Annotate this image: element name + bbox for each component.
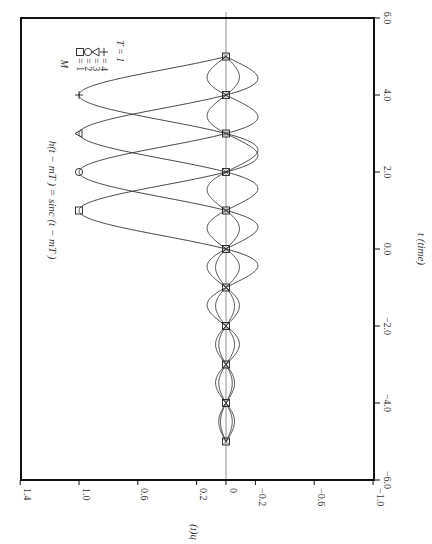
t-tick-label: 6.0	[382, 12, 393, 25]
h-tick-label: 0	[228, 488, 239, 493]
t-tick-label: 4.0	[382, 89, 393, 102]
triangle-marker-icon	[75, 130, 82, 138]
legend-entry-label: = 4	[99, 58, 110, 71]
legend-entries: = 1= 2= 3= 4	[75, 48, 110, 71]
t-axis-title: t (time)	[415, 233, 428, 265]
h-tick-label: 0.2	[198, 488, 209, 501]
t-tick-label: 0.0	[382, 243, 393, 256]
h-tick-label: −0.2	[257, 488, 268, 506]
legend-title: M	[59, 59, 70, 69]
h-axis-ticks: 1.41.00.60.20−0.2−0.6−1.0	[20, 480, 385, 506]
t-tick-label: −2.0	[382, 317, 393, 335]
formula-annotation: h(t − mT ) = sinc (t − mT )	[46, 141, 59, 260]
curve-square	[79, 57, 258, 442]
t-axis-ticks: −6.0−4.0−2.00.02.04.06.0	[374, 12, 393, 489]
t-tick-label: −6.0	[382, 471, 393, 489]
curve-triangle	[79, 57, 258, 442]
t-tick-label: −4.0	[382, 394, 393, 412]
h-tick-label: 1.4	[22, 488, 33, 501]
data-markers	[75, 53, 230, 445]
h-tick-label: 1.0	[81, 488, 92, 501]
h-tick-label: −0.6	[316, 488, 327, 506]
t-tick-label: 2.0	[382, 166, 393, 179]
h-axis-title: h(t)	[186, 524, 199, 540]
triangle-marker-icon	[92, 48, 99, 56]
h-tick-label: −1.0	[375, 488, 386, 506]
sinc-curves	[79, 57, 258, 442]
sinc-chart: 1.41.00.60.20−0.2−0.6−1.0 −6.0−4.0−2.00.…	[0, 0, 432, 544]
legend-note: T = 1	[115, 40, 126, 62]
plot-frame	[21, 18, 374, 480]
legend: M = 1= 2= 3= 4 T = 1	[59, 40, 126, 71]
curve-circle	[79, 57, 258, 442]
square-marker-icon	[77, 49, 84, 56]
h-tick-label: 0.6	[139, 488, 150, 501]
curve-plus	[79, 57, 258, 442]
circle-marker-icon	[84, 48, 91, 55]
